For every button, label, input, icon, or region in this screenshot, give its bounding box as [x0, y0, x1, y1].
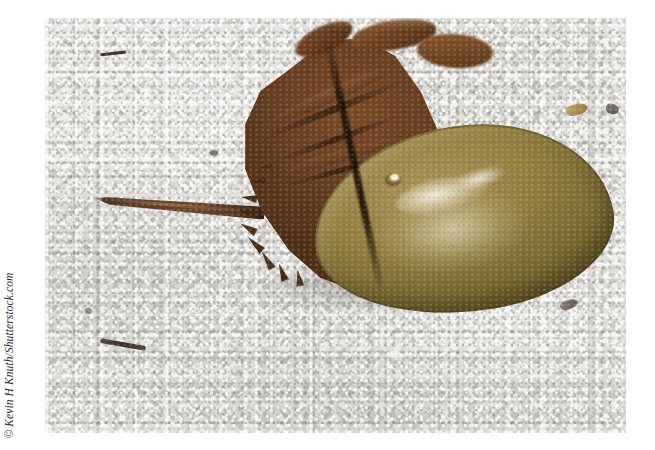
figure-root: © Kevin H Knuth/Shutterstock.com: [0, 0, 655, 450]
photograph: [45, 18, 626, 433]
marginal-spine-8: [251, 178, 265, 184]
marginal-spine-1: [241, 193, 258, 203]
horseshoe-crab: [45, 18, 626, 433]
marginal-spine-3: [238, 220, 258, 236]
abdomen-rear-lobe-far-right: [416, 31, 494, 70]
photo-credit: © Kevin H Knuth/Shutterstock.com: [4, 272, 16, 438]
